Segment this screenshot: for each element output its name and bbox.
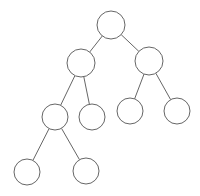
tree-edge [121,35,139,52]
tree-node [79,104,105,130]
tree-edge [33,129,49,161]
tree-diagram [0,0,200,196]
tree-edge [156,73,171,99]
tree-node [164,98,190,124]
tree-node [73,158,99,184]
tree-node [14,159,40,185]
tree-node [42,104,68,130]
tree-node [117,98,143,124]
tree-edge [61,128,79,159]
tree-node [67,49,95,77]
tree-node [97,11,125,39]
tree-edge [84,77,90,105]
tree-edge [135,74,144,99]
tree-node [135,47,163,75]
tree-edge [90,36,103,52]
tree-edge [61,76,75,106]
